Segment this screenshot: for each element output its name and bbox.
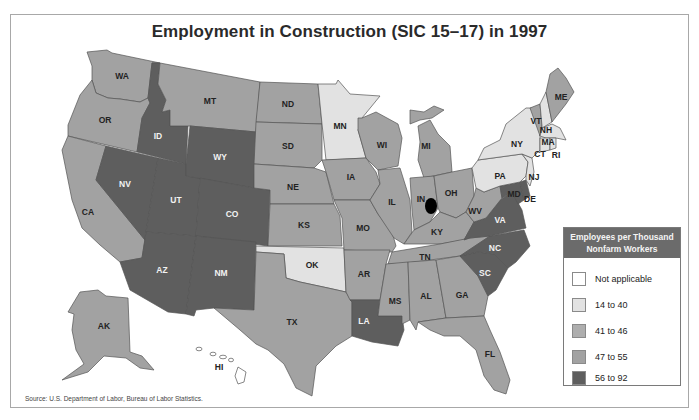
legend-item-14-40: 14 to 40: [572, 298, 628, 312]
label-mi: MI: [421, 141, 430, 151]
label-co: CO: [226, 209, 239, 219]
label-sd: SD: [282, 141, 294, 151]
legend: Employees per Thousand Nonfarm Workers N…: [563, 227, 681, 386]
label-fl: FL: [485, 349, 495, 359]
legend-item-56-92: 56 to 92: [572, 371, 628, 385]
label-me: ME: [555, 92, 568, 102]
label-mt: MT: [204, 96, 217, 106]
label-md: MD: [507, 189, 520, 199]
source-note: Source: U.S. Department of Labor, Bureau…: [25, 395, 203, 402]
legend-heading-line2: Nonfarm Workers: [566, 243, 678, 255]
legend-swatch: [572, 298, 586, 312]
label-az: AZ: [156, 265, 167, 275]
label-la: LA: [358, 316, 369, 326]
state-ak: [62, 290, 154, 380]
label-wi: WI: [377, 140, 387, 150]
label-ga: GA: [456, 290, 469, 300]
label-hi: HI: [215, 362, 224, 372]
label-sc: SC: [479, 268, 491, 278]
label-ks: KS: [298, 220, 310, 230]
legend-swatch: [572, 272, 586, 286]
state-fl: [418, 316, 510, 394]
legend-item-not-applicable: Not applicable: [572, 272, 652, 286]
label-va: VA: [494, 215, 505, 225]
label-in: IN: [417, 194, 426, 204]
label-ne: NE: [287, 182, 299, 192]
label-mn: MN: [333, 121, 346, 131]
label-ca: CA: [82, 207, 94, 217]
label-wa: WA: [115, 71, 129, 81]
legend-heading: Employees per Thousand Nonfarm Workers: [564, 228, 680, 258]
legend-label: 56 to 92: [595, 373, 628, 383]
label-nc: NC: [489, 243, 501, 253]
label-ct: CT: [534, 149, 546, 159]
label-al: AL: [420, 291, 431, 301]
label-ky: KY: [431, 227, 443, 237]
label-wy: WY: [213, 152, 227, 162]
label-id: ID: [154, 131, 163, 141]
label-il: IL: [388, 197, 396, 207]
label-oh: OH: [445, 188, 458, 198]
label-ma: MA: [541, 137, 554, 147]
label-mo: MO: [356, 223, 370, 233]
legend-swatch: [572, 324, 586, 338]
label-ar: AR: [358, 269, 370, 279]
label-ia: IA: [347, 172, 356, 182]
marker-dot: [425, 198, 437, 214]
legend-heading-line1: Employees per Thousand: [566, 231, 678, 243]
legend-label: 41 to 46: [595, 326, 628, 336]
legend-label: Not applicable: [595, 274, 652, 284]
label-tn: TN: [419, 252, 430, 262]
label-tx: TX: [287, 317, 298, 327]
label-nv: NV: [119, 179, 131, 189]
label-de: DE: [524, 194, 536, 204]
label-ak: AK: [98, 321, 111, 331]
label-ms: MS: [389, 296, 402, 306]
legend-item-47-55: 47 to 55: [572, 350, 628, 364]
label-pa: PA: [494, 171, 505, 181]
legend-swatch: [572, 350, 586, 364]
label-ok: OK: [306, 260, 320, 270]
legend-label: 14 to 40: [595, 300, 628, 310]
label-wv: WV: [468, 206, 482, 216]
label-ut: UT: [170, 195, 182, 205]
label-nd: ND: [282, 99, 294, 109]
label-nm: NM: [214, 268, 227, 278]
label-nj: NJ: [529, 172, 540, 182]
legend-label: 47 to 55: [595, 352, 628, 362]
label-or: OR: [99, 115, 112, 125]
legend-swatch: [572, 371, 586, 385]
label-ri: RI: [552, 150, 561, 160]
legend-item-41-46: 41 to 46: [572, 324, 628, 338]
label-nh: NH: [540, 125, 552, 135]
state-mi: [410, 106, 452, 178]
label-ny: NY: [511, 139, 523, 149]
